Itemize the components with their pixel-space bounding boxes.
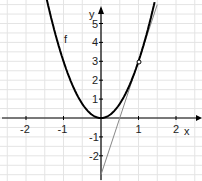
y-axis-arrow-icon xyxy=(98,6,104,14)
plot-area: f y x -2-11254321-1-2 xyxy=(0,0,202,181)
y-tick-label: -1 xyxy=(89,131,99,143)
y-tick-label: -2 xyxy=(89,150,99,162)
y-tick-label: 5 xyxy=(92,18,98,30)
x-tick-label: -2 xyxy=(20,123,30,135)
x-axis-label: x xyxy=(184,125,190,137)
y-tick-label: 3 xyxy=(92,55,98,67)
y-tick-label: 1 xyxy=(92,93,98,105)
y-tick-label: 2 xyxy=(92,74,98,86)
x-tick-label: -1 xyxy=(58,123,68,135)
curve-label: f xyxy=(64,33,68,45)
y-tick-label: 4 xyxy=(92,36,98,48)
x-tick-label: 2 xyxy=(173,123,179,135)
x-axis-arrow-icon xyxy=(196,115,202,121)
x-tick-label: 1 xyxy=(136,123,142,135)
chart: f y x -2-11254321-1-2 xyxy=(0,0,202,181)
tangent-point xyxy=(137,60,141,64)
